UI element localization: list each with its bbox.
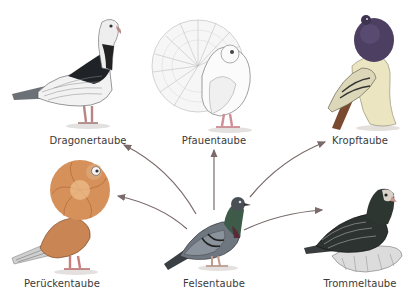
pigeon-breeds-diagram: Dragonertaube Pfauentaube Kropftaube Per…	[0, 0, 419, 293]
label-dragonertaube: Dragonertaube	[49, 135, 126, 146]
perueckentaube-illustration	[10, 158, 120, 276]
label-pfauentaube: Pfauentaube	[182, 135, 247, 146]
label-trommeltaube: Trommeltaube	[323, 278, 396, 289]
felsentaube-illustration	[162, 192, 254, 272]
label-kropftaube: Kropftaube	[332, 135, 388, 146]
kropftaube-illustration	[322, 12, 412, 132]
label-felsentaube: Felsentaube	[183, 278, 245, 289]
dragonertaube-illustration	[8, 14, 123, 129]
trommeltaube-illustration	[302, 184, 414, 274]
pfauentaube-illustration	[150, 6, 275, 134]
label-perueckentaube: Perückentaube	[24, 278, 100, 289]
